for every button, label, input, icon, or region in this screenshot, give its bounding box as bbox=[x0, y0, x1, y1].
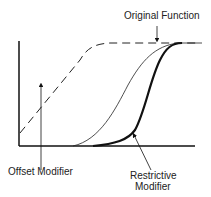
original-function-curve bbox=[73, 43, 202, 146]
restrictive-arrow bbox=[134, 135, 151, 170]
offset-modifier-curve bbox=[20, 43, 200, 133]
original-function-label: Original Function bbox=[124, 10, 200, 21]
offset-modifier-label: Offset Modifier bbox=[8, 166, 73, 177]
restrictive-modifier-curve bbox=[93, 43, 182, 146]
restrictive-modifier-label-2: Modifier bbox=[135, 181, 171, 192]
restrictive-modifier-label-1: Restrictive bbox=[130, 170, 177, 181]
